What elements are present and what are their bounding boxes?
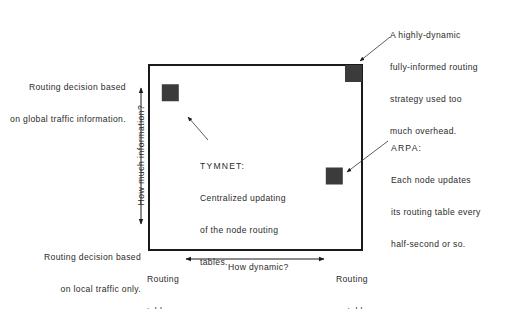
y-top-line-2: on global traffic information. [10,114,126,125]
x-axis-left-label: Routing table never changes. [147,253,185,309]
tymnet-line-2: Centralized updating [200,193,286,204]
arpa-line-2: Each node updates [391,175,481,186]
dynamic-line-1: A highly-dynamic [390,30,478,41]
tymnet-marker [162,84,179,101]
y-axis-top-label: Routing decision based on global traffic… [10,61,126,135]
x-axis-right-label: Routing table changes frequently. [318,253,368,309]
arpa-line-1: ARPA: [391,143,481,154]
y-bottom-line-2: on local traffic only. [44,284,141,295]
x-left-line-1: Routing [147,274,185,285]
arpa-annotation: ARPA: Each node updates its routing tabl… [391,122,481,260]
y-axis-label: How much information? [136,105,146,206]
tymnet-line-3: of the node routing [200,225,286,236]
tymnet-leader-line [188,117,208,140]
dynamic-leader-line [360,37,390,61]
y-top-line-1: Routing decision based [10,82,126,93]
dynamic-line-2: fully-informed routing [390,62,478,73]
arpa-leader-line [347,141,388,172]
dynamic-marker [345,65,362,82]
y-bottom-line-1: Routing decision based [44,252,141,263]
arpa-marker [326,168,343,185]
x-right-line-1: Routing [318,274,368,285]
dynamic-line-3: strategy used too [390,94,478,105]
tymnet-line-1: TYMNET: [200,161,286,172]
arpa-line-3: its routing table every [391,207,481,218]
arpa-line-4: half-second or so. [391,239,481,250]
tymnet-annotation: TYMNET: Centralized updating of the node… [200,140,286,278]
y-axis-bottom-label: Routing decision based on local traffic … [44,231,141,305]
tymnet-line-4: tables. [200,257,286,268]
